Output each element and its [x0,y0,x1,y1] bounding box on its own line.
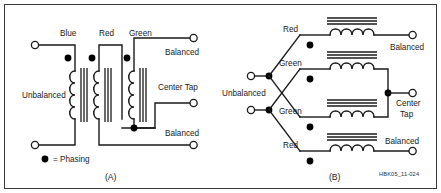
label-b-row4-output: Balanced [385,137,420,146]
label-b-row1-winding: Red [283,25,298,34]
coil-b-row4-red [330,145,374,151]
panel-a: Blue Red Green Unbalanced Balanced Cente… [22,29,200,182]
label-b-row3-winding: Green [279,107,302,116]
coil-a-primary-blue [70,71,75,119]
phasing-dot-b-row3 [307,124,314,131]
terminal-a-balanced-top[interactable] [190,34,197,41]
figure-container: Blue Red Green Unbalanced Balanced Cente… [0,0,441,193]
schematic-drawing: Blue Red Green Unbalanced Balanced Cente… [0,0,441,193]
label-a-green: Green [129,29,152,38]
label-legend-phasing: = Phasing [53,155,90,164]
label-a-center-tap: Center Tap [158,83,198,92]
phasing-dot-a-green [124,55,131,62]
terminal-b-balanced-bottom[interactable] [409,147,416,154]
terminal-a-balanced-bottom[interactable] [190,141,197,148]
wire-a-primary-bottom [39,119,75,145]
label-a-unbalanced: Unbalanced [22,91,66,100]
terminal-b-unbalanced-bottom[interactable] [247,106,254,113]
terminal-a-unbalanced-bottom[interactable] [31,141,38,148]
coil-b-row2-green [330,63,374,69]
label-b-unbalanced: Unbalanced [222,89,266,98]
label-b-row2-winding: Green [279,59,302,68]
wire-b-top-to-row1 [269,35,300,76]
wire-b-bottom-to-row2 [269,69,300,110]
label-b-row4-winding: Red [283,141,298,150]
coil-a-secondary-red [94,71,99,119]
terminal-b-balanced-top[interactable] [409,31,416,38]
caption-panel-b: (B) [329,172,341,182]
phasing-dot-b-row4 [307,158,314,165]
terminal-a-unbalanced-top[interactable] [31,41,38,48]
coil-b-row3-green [330,111,374,117]
panel-b: Red Balanced Green Green Center [222,18,425,182]
phasing-dot-a-blue [65,55,72,62]
label-a-blue: Blue [60,29,77,38]
label-a-balanced-top: Balanced [165,48,200,57]
terminal-b-unbalanced-top[interactable] [247,72,254,79]
label-a-red: Red [99,29,114,38]
coil-b-row1-red [330,29,374,35]
label-a-balanced-bottom: Balanced [165,129,200,138]
figure-id-label: HBK05_11-024 [379,171,419,177]
phasing-dot-a-red [89,55,96,62]
terminal-a-center-tap[interactable] [190,99,197,106]
phasing-dot-b-row2 [307,76,314,83]
coil-a-secondary-green [129,71,134,119]
label-b-center-tap-line1: Center [396,99,421,108]
junction-a-center-tap [131,125,138,132]
terminal-b-center-tap[interactable] [409,89,416,96]
wire-b-row3-out [374,93,388,117]
phasing-dot-legend-icon [42,156,49,163]
phasing-dot-b-row1 [307,42,314,49]
caption-panel-a: (A) [105,172,117,182]
label-b-row1-output: Balanced [390,43,425,52]
wire-b-row2-out [374,69,388,93]
label-b-center-tap-line2: Tap [400,110,414,119]
